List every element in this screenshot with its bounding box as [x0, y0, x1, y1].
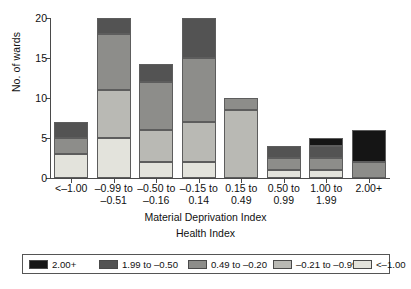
x-tick-label: 1.00 to 1.99: [305, 182, 348, 206]
x-tick-label: –0.99 to –0.51: [93, 182, 136, 206]
y-tick-label: 20: [25, 12, 47, 24]
legend-item[interactable]: –0.21 to –0.99: [273, 258, 357, 271]
legend-swatch: [188, 260, 207, 269]
y-tick-label: 10: [25, 92, 47, 104]
bar-5[interactable]: [224, 18, 258, 178]
bar-segment[interactable]: [352, 162, 386, 178]
bar-8[interactable]: [352, 18, 386, 178]
bar-segment[interactable]: [139, 64, 173, 82]
bar-segment[interactable]: [309, 138, 343, 146]
legend-box: 2.00+1.99 to –0.500.49 to –0.20–0.21 to …: [22, 254, 390, 274]
y-tick-label: 5: [25, 132, 47, 144]
bar-7[interactable]: [309, 18, 343, 178]
bar-segment[interactable]: [97, 90, 131, 138]
bar-segment[interactable]: [224, 110, 258, 178]
bar-segment[interactable]: [182, 122, 216, 162]
legend-item[interactable]: 1.99 to –0.50: [99, 258, 178, 271]
legend-swatch: [29, 260, 48, 269]
legend-item[interactable]: 0.49 to –0.20: [188, 258, 267, 271]
plot-area: 05101520: [50, 18, 390, 178]
x-tick-label: 2.00+: [348, 182, 391, 194]
bar-segment[interactable]: [54, 122, 88, 138]
x-tick-label: 0.15 to 0.49: [220, 182, 263, 206]
y-axis-line: [50, 18, 51, 179]
x-tick-label: –0.50 to –0.16: [135, 182, 178, 206]
bar-segment[interactable]: [54, 154, 88, 178]
legend-item[interactable]: 2.00+: [29, 258, 76, 271]
bar-4[interactable]: [182, 18, 216, 178]
legend-label: 0.49 to –0.20: [211, 259, 267, 270]
bar-segment[interactable]: [352, 130, 386, 162]
legend-label: <–1.00: [376, 259, 406, 270]
bar-segment[interactable]: [97, 18, 131, 34]
legend-title: Health Index: [0, 227, 411, 239]
y-tick-label: 0: [25, 172, 47, 184]
legend-label: –0.21 to –0.99: [296, 259, 357, 270]
legend-swatch: [353, 260, 372, 269]
legend-label: 1.99 to –0.50: [122, 259, 178, 270]
bar-segment[interactable]: [97, 34, 131, 90]
bar-segment[interactable]: [309, 146, 343, 158]
legend-swatch: [99, 260, 118, 269]
legend-item[interactable]: <–1.00: [353, 258, 406, 271]
x-tick-label: –0.15 to 0.14: [178, 182, 221, 206]
bar-1[interactable]: [54, 18, 88, 178]
x-axis-title: Material Deprivation Index: [0, 211, 411, 223]
bar-segment[interactable]: [224, 98, 258, 110]
bar-3[interactable]: [139, 18, 173, 178]
bar-segment[interactable]: [267, 146, 301, 158]
legend-swatch: [273, 260, 292, 269]
bar-segment[interactable]: [139, 130, 173, 162]
bar-segment[interactable]: [139, 162, 173, 178]
x-tick-label: 0.50 to 0.99: [263, 182, 306, 206]
bar-segment[interactable]: [139, 82, 173, 130]
bar-segment[interactable]: [182, 18, 216, 58]
x-axis-tick-labels: <–1.00–0.99 to –0.51–0.50 to –0.16–0.15 …: [50, 182, 390, 214]
bar-segment[interactable]: [309, 170, 343, 178]
bar-segment[interactable]: [97, 138, 131, 178]
y-tick-label: 15: [25, 52, 47, 64]
bar-6[interactable]: [267, 18, 301, 178]
bar-segment[interactable]: [267, 170, 301, 178]
bar-2[interactable]: [97, 18, 131, 178]
bar-segment[interactable]: [182, 162, 216, 178]
legend-label: 2.00+: [52, 259, 76, 270]
bar-segment[interactable]: [182, 58, 216, 122]
bar-segment[interactable]: [54, 138, 88, 154]
x-axis-line: [50, 178, 390, 179]
bar-segment[interactable]: [267, 158, 301, 170]
bar-segment[interactable]: [309, 158, 343, 170]
y-axis-title: No. of wards: [10, 22, 22, 102]
stacked-bar-chart: No. of wards 05101520 <–1.00–0.99 to –0.…: [0, 0, 411, 289]
x-tick-label: <–1.00: [50, 182, 93, 194]
